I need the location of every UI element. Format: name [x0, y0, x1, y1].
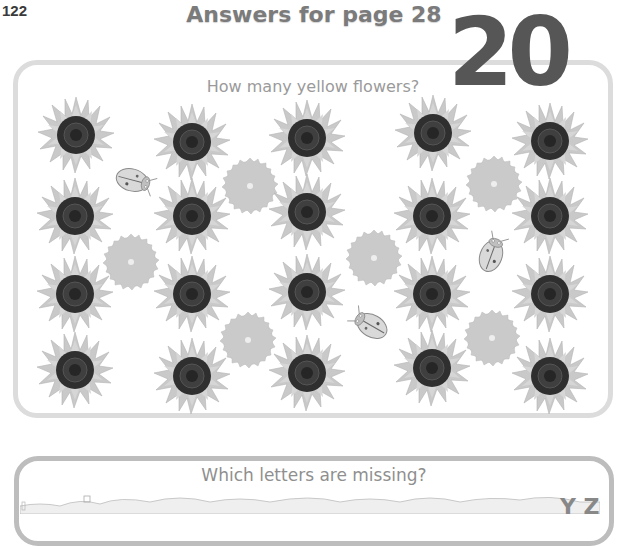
ladybird-icon — [475, 230, 509, 275]
answer-number: 20 — [448, 6, 567, 100]
sunflower-icon — [512, 103, 588, 179]
pale-flower-icon — [346, 230, 402, 286]
sunflower-icon — [38, 97, 114, 173]
sunflower-icon — [37, 178, 113, 254]
sunflower-icon — [512, 256, 588, 332]
sunflower-icon — [269, 335, 345, 411]
sunflower-icon — [269, 100, 345, 176]
sunflower-icon — [394, 256, 470, 332]
sunflower-icon — [37, 332, 113, 408]
sunflower-icon — [154, 338, 230, 414]
ladybird-icon — [114, 165, 158, 197]
sunflower-icon — [394, 330, 470, 406]
scenery-strip — [20, 494, 600, 514]
sunflower-icon — [394, 178, 470, 254]
ladybird-icon — [346, 304, 392, 343]
pale-flower-icon — [464, 310, 520, 366]
sunflower-icon — [37, 256, 113, 332]
pale-flower-icon — [103, 234, 159, 290]
sunflower-icon — [512, 338, 588, 414]
question-prompt-2: Which letters are missing? — [19, 465, 609, 485]
sunflower-icon — [512, 178, 588, 254]
sunflower-icon — [154, 256, 230, 332]
sunflower-icon — [269, 174, 345, 250]
visible-letters: Y Z — [560, 494, 600, 519]
sunflower-icon — [269, 254, 345, 330]
pale-flower-icon — [466, 156, 522, 212]
sunflower-icon — [154, 104, 230, 180]
pale-flower-icon — [220, 312, 276, 368]
sunflower-icon — [154, 178, 230, 254]
pale-flower-icon — [222, 158, 278, 214]
